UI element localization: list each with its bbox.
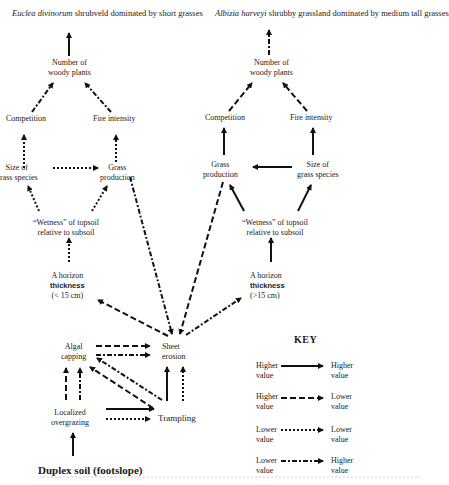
key-row-4-to: Highervalue bbox=[331, 456, 353, 476]
key-title: KEY bbox=[294, 334, 317, 345]
left-panel-title: Euclea divinorum shrubveld dominated by … bbox=[12, 8, 203, 18]
faded-caption-line bbox=[40, 476, 420, 481]
node-algal-capping: Algal capping bbox=[61, 342, 86, 362]
key-row-1-to: Highervalue bbox=[331, 361, 353, 381]
arrow-right-fire-to-woody bbox=[283, 83, 307, 111]
node-localized-overgrazing: Localized overgrazing bbox=[51, 408, 89, 428]
right-node-horizon-thickness: A horizon thickness (>15 cm) bbox=[250, 271, 285, 301]
right-panel-title: Albizia harveyi shrubby grassland domina… bbox=[215, 8, 449, 18]
left-node-competition: Competition bbox=[6, 114, 46, 124]
arrow-left-competition-to-woody bbox=[32, 83, 53, 112]
left-node-size-grass-species: Size of grass species bbox=[0, 163, 38, 183]
arrow-right-competition-to-woody bbox=[229, 83, 252, 111]
key-row-4-from: Lowervalue bbox=[256, 456, 277, 476]
arrow-grass-left-to-sheet bbox=[130, 177, 172, 334]
arrow-left-fire-to-woody bbox=[85, 83, 111, 112]
node-trampling: Trampling bbox=[158, 413, 196, 423]
arrow-sheet-to-horizon-right bbox=[186, 298, 241, 335]
left-title-rest: shrubveld dominated by short grasses bbox=[73, 8, 203, 18]
arrow-sheet-to-horizon-left bbox=[98, 300, 168, 336]
right-node-fire-intensity: Fire intensity bbox=[290, 113, 332, 123]
key-row-1-from: Highervalue bbox=[256, 361, 278, 381]
arrow-grass-right-to-sheet bbox=[180, 182, 223, 334]
right-title-rest: shrubby grassland dominated by medium ta… bbox=[267, 8, 449, 18]
key-row-3-from: Lowervalue bbox=[256, 425, 277, 445]
arrow-left-wetness-to-size bbox=[28, 186, 39, 211]
left-node-horizon-thickness: A horizon thickness (< 15 cm) bbox=[50, 271, 85, 301]
right-node-grass-production: Grass production bbox=[203, 160, 238, 180]
node-duplex-soil: Duplex soil (footslope) bbox=[38, 464, 143, 476]
arrow-right-wetness-to-size bbox=[298, 185, 311, 211]
left-node-fire-intensity: Fire intensity bbox=[93, 114, 135, 124]
right-node-competition: Competition bbox=[205, 113, 245, 123]
right-node-woody-plants: Number of woody plants bbox=[250, 58, 293, 78]
right-node-wetness: “Wetness” of topsoil relative to subsoil bbox=[242, 218, 308, 238]
left-node-woody-plants: Number of woody plants bbox=[48, 58, 91, 78]
arrow-left-wetness-to-grass bbox=[92, 186, 107, 211]
left-node-wetness: “Wetness” of topsoil relative to subsoil bbox=[33, 218, 99, 238]
key-row-2-from: Highervalue bbox=[256, 392, 278, 412]
key-row-3-to: Lowervalue bbox=[331, 425, 352, 445]
node-sheet-erosion: Sheet erosion bbox=[162, 342, 186, 362]
arrow-right-wetness-to-grass bbox=[230, 185, 244, 211]
right-title-species: Albizia harveyi bbox=[215, 8, 267, 18]
key-row-2-to: Lowervalue bbox=[331, 392, 352, 412]
left-title-species: Euclea divinorum bbox=[12, 8, 73, 18]
left-node-grass-production: Grass production bbox=[100, 163, 135, 183]
right-node-size-grass-species: Size of grass species bbox=[297, 160, 339, 180]
